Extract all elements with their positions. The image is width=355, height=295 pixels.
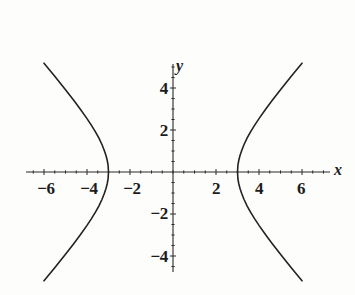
x-tick-label-6: 6 — [292, 180, 310, 197]
axes-group — [26, 64, 330, 272]
x-tick-label--2: −2 — [118, 180, 146, 197]
hyperbola-figure: −6 −4 −2 2 4 6 4 2 −2 −4 y x — [0, 0, 355, 295]
x-tick-label-4: 4 — [250, 180, 268, 197]
x-tick-label--4: −4 — [75, 180, 103, 197]
hyperbola-left-branch — [44, 63, 109, 172]
y-tick-label-4: 4 — [152, 80, 168, 97]
y-axis-label: y — [176, 58, 183, 74]
plot-canvas — [0, 0, 355, 295]
x-axis-label: x — [334, 162, 342, 178]
y-tick-label-2: 2 — [152, 122, 168, 139]
x-tick-label--6: −6 — [32, 180, 60, 197]
y-tick-label--4: −4 — [141, 248, 168, 265]
hyperbola-right-branch — [238, 63, 303, 172]
y-tick-label--2: −2 — [141, 205, 168, 222]
x-tick-label-2: 2 — [207, 180, 225, 197]
